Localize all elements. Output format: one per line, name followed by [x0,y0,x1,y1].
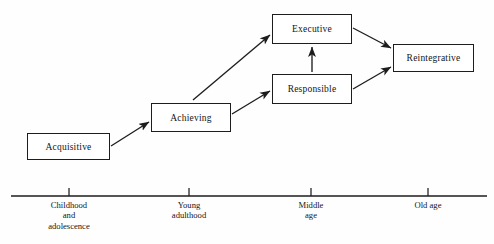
axis-group [11,188,487,196]
arrow-executive-to-reintegrative [353,28,391,48]
stage-box-achieving: Achieving [151,103,231,132]
stage-label-responsible: Responsible [288,84,337,94]
axis-label-line: and [9,210,129,220]
axis-label-line: adulthood [129,210,249,220]
axis-label-middle-age: Middleage [251,200,371,221]
stage-label-acquisitive: Acquisitive [46,142,92,152]
axis-label-childhood-and-adolescence: Childhoodandadolescence [9,200,129,231]
stage-label-achieving: Achieving [170,113,211,123]
stage-label-reintegrative: Reintegrative [407,53,461,63]
arrow-responsible-to-reintegrative [353,67,391,89]
axis-label-line: adolescence [9,221,129,231]
axis-label-line: age [251,210,371,220]
stage-label-executive: Executive [292,24,332,34]
axis-label-line: Middle [251,200,371,210]
axis-label-young-adulthood: Youngadulthood [129,200,249,221]
stage-box-acquisitive: Acquisitive [27,133,110,160]
arrow-achieving-to-executive [193,35,270,100]
cognitive-development-diagram: AcquisitiveAchievingExecutiveResponsible… [0,0,494,244]
arrow-achieving-to-responsible [232,91,270,114]
axis-label-line: Childhood [9,200,129,210]
stage-box-executive: Executive [272,14,352,44]
axis-label-line: Young [129,200,249,210]
arrow-acquisitive-to-achieving [111,122,149,146]
stage-box-reintegrative: Reintegrative [393,44,474,72]
stage-box-responsible: Responsible [272,74,352,104]
axis-label-line: Old age [368,200,488,210]
axis-label-old-age: Old age [368,200,488,210]
